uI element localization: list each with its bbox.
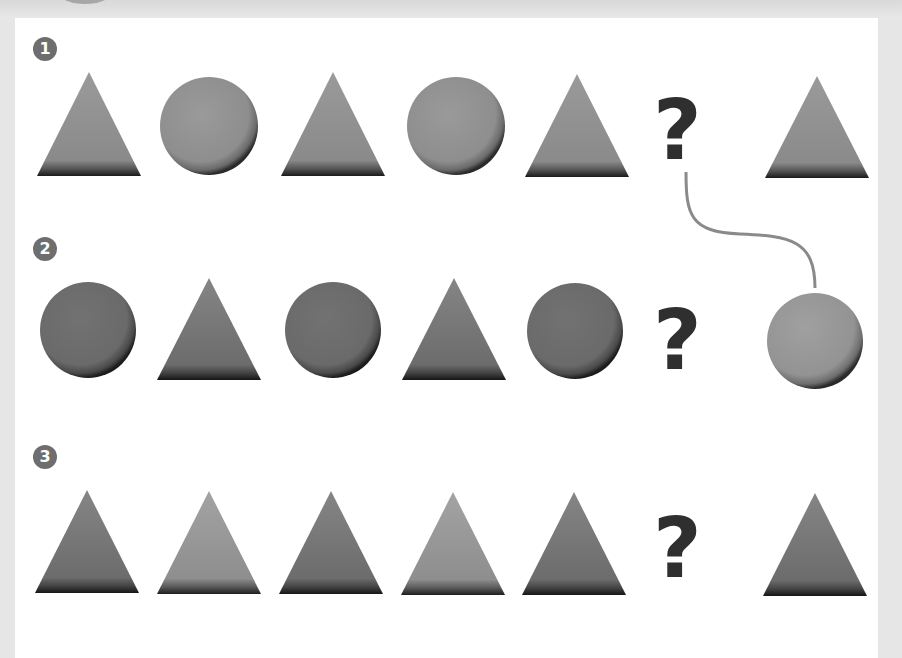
row-3-triangle-2 [157,491,261,594]
row-1-circle-4 [407,77,505,175]
row-2-sequence [40,278,863,389]
row-2-answer-circle [767,293,863,389]
connector-line [686,172,815,288]
row-2-triangle-2 [157,278,261,380]
row-3-triangle-1 [35,490,139,593]
row-1-triangle-1 [37,72,141,176]
row-1-sequence [37,72,869,178]
row-2-triangle-4 [402,278,506,380]
row-3-answer-triangle [763,493,867,596]
row-3-triangle-3 [279,491,383,594]
row-3-triangle-5 [522,492,626,595]
row-1-answer-triangle [765,76,869,178]
row-3-sequence [35,490,867,596]
row-2-circle-3 [285,282,381,378]
row-1-circle-2 [160,77,258,175]
row-2-circle-1 [40,282,136,378]
row-1-triangle-3 [281,72,385,176]
row-2-circle-5 [527,283,623,379]
row-3-triangle-4 [401,492,505,595]
row-1-triangle-5 [525,74,629,177]
